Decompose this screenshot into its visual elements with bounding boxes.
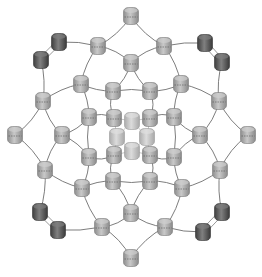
dark-cylinder-node	[33, 204, 48, 221]
light-cylinder-node	[75, 180, 90, 197]
dark-cylinder-node	[198, 35, 213, 52]
center-cylinder-node	[125, 143, 140, 160]
light-cylinder-node	[74, 76, 89, 93]
light-cylinder-node	[213, 162, 228, 179]
light-cylinder-node	[157, 38, 172, 55]
network-diagram	[0, 0, 262, 277]
light-cylinder-node	[167, 149, 182, 166]
light-cylinder-node	[124, 250, 139, 267]
light-cylinder-node	[193, 127, 208, 144]
light-cylinder-node	[106, 83, 121, 100]
light-cylinder-node	[167, 109, 182, 126]
dark-cylinder-node	[51, 222, 66, 239]
node-layer	[8, 8, 256, 267]
light-cylinder-node	[55, 127, 70, 144]
light-cylinder-node	[124, 8, 139, 25]
light-cylinder-node	[143, 83, 158, 100]
light-cylinder-node	[38, 162, 53, 179]
dark-cylinder-node	[215, 54, 230, 71]
light-cylinder-node	[241, 127, 256, 144]
light-cylinder-node	[124, 55, 139, 72]
center-cylinder-node	[140, 129, 155, 146]
light-cylinder-node	[158, 219, 173, 236]
light-cylinder-node	[143, 147, 158, 164]
light-cylinder-node	[212, 93, 227, 110]
light-cylinder-node	[91, 38, 106, 55]
light-cylinder-node	[95, 219, 110, 236]
light-cylinder-node	[36, 93, 51, 110]
dark-cylinder-node	[34, 52, 49, 69]
center-cylinder-node	[110, 129, 125, 146]
light-cylinder-node	[175, 180, 190, 197]
light-cylinder-node	[82, 109, 97, 126]
light-cylinder-node	[82, 149, 97, 166]
dark-cylinder-node	[52, 34, 67, 51]
light-cylinder-node	[8, 127, 23, 144]
light-cylinder-node	[143, 110, 158, 127]
diagram-canvas	[0, 0, 262, 277]
light-cylinder-node	[124, 205, 139, 222]
dark-cylinder-node	[196, 224, 211, 241]
light-cylinder-node	[106, 173, 121, 190]
dark-cylinder-node	[215, 204, 230, 221]
light-cylinder-node	[107, 147, 122, 164]
light-cylinder-node	[107, 110, 122, 127]
light-cylinder-node	[174, 76, 189, 93]
center-cylinder-node	[125, 113, 140, 130]
light-cylinder-node	[143, 173, 158, 190]
